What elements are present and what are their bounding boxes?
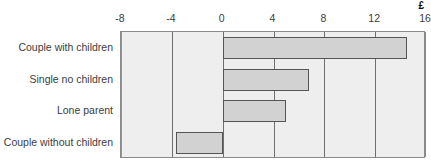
bar: [176, 132, 223, 154]
y-category-label: Lone parent: [57, 104, 113, 116]
x-axis-tick-labels: -8-40481216: [0, 12, 426, 26]
x-tick-label: -4: [166, 12, 175, 25]
gridline: [121, 32, 122, 157]
bar: [223, 100, 287, 122]
x-tick-label: 12: [368, 12, 380, 25]
x-tick-label: 0: [219, 12, 225, 25]
bar: [223, 69, 309, 91]
bar: [223, 37, 407, 59]
plot-area: [120, 31, 425, 158]
y-category-label: Couple with children: [18, 41, 113, 53]
y-category-label: Couple without children: [4, 136, 113, 148]
gridline: [425, 32, 426, 157]
x-tick-label: 4: [270, 12, 276, 25]
y-axis-category-labels: Couple with childrenSingle no childrenLo…: [0, 31, 118, 158]
currency-unit-label: £: [418, 0, 424, 11]
x-tick-label: 16: [419, 12, 431, 25]
y-category-label: Single no children: [30, 73, 113, 85]
x-tick-label: 8: [320, 12, 326, 25]
x-tick-label: -8: [115, 12, 124, 25]
gridline: [172, 32, 173, 157]
